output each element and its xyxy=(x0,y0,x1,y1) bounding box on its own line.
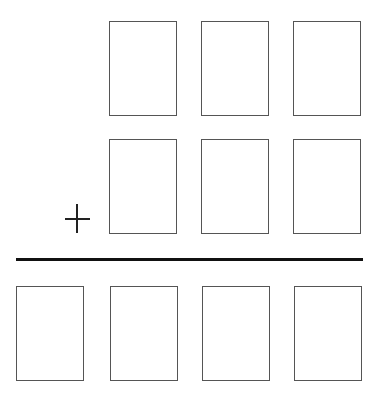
sum-digit-box-4 xyxy=(294,286,362,381)
addend1-digit-box-3 xyxy=(293,21,361,116)
addend2-digit-box-3 xyxy=(293,139,361,234)
addend2-digit-box-1 xyxy=(109,139,177,234)
sum-digit-box-1 xyxy=(16,286,84,381)
addend2-digit-box-2 xyxy=(201,139,269,234)
addend1-digit-box-2 xyxy=(201,21,269,116)
sum-digit-box-3 xyxy=(202,286,270,381)
addend1-digit-box-1 xyxy=(109,21,177,116)
sum-divider-line xyxy=(16,258,363,261)
sum-digit-box-2 xyxy=(110,286,178,381)
plus-vertical-stroke xyxy=(76,204,78,233)
